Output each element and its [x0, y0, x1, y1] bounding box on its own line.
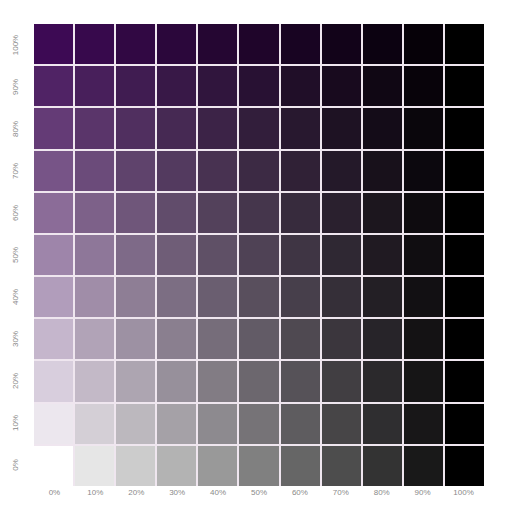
x-tick-label: 20% — [116, 488, 156, 497]
color-cell — [116, 235, 155, 275]
color-cell — [34, 404, 73, 444]
color-cell — [116, 277, 155, 317]
y-tick-label: 10% — [9, 409, 23, 437]
color-cell — [445, 277, 484, 317]
color-cell — [322, 193, 361, 233]
color-cell — [404, 108, 443, 148]
color-cell — [239, 193, 278, 233]
color-cell — [198, 193, 237, 233]
color-cell — [322, 277, 361, 317]
color-cell — [404, 235, 443, 275]
color-cell — [445, 24, 484, 64]
color-cell — [404, 404, 443, 444]
color-cell — [198, 66, 237, 106]
color-cell — [239, 319, 278, 359]
color-cell — [239, 446, 278, 486]
color-cell — [404, 151, 443, 191]
x-tick-label: 10% — [75, 488, 115, 497]
color-cell — [34, 277, 73, 317]
color-cell — [75, 361, 114, 401]
color-cell — [239, 235, 278, 275]
color-grid — [34, 24, 484, 486]
color-cell — [116, 24, 155, 64]
color-cell — [116, 193, 155, 233]
color-cell — [75, 404, 114, 444]
color-cell — [281, 24, 320, 64]
x-tick-label: 30% — [157, 488, 197, 497]
color-cell — [445, 151, 484, 191]
color-cell — [322, 404, 361, 444]
y-tick-label: 100% — [9, 31, 23, 59]
color-cell — [34, 108, 73, 148]
color-cell — [322, 66, 361, 106]
color-cell — [404, 277, 443, 317]
color-cell — [363, 151, 402, 191]
color-cell — [445, 404, 484, 444]
color-cell — [281, 404, 320, 444]
y-tick-label: 40% — [9, 283, 23, 311]
y-tick-label: 20% — [9, 367, 23, 395]
color-cell — [322, 319, 361, 359]
color-cell — [157, 446, 196, 486]
color-cell — [363, 24, 402, 64]
color-cell — [34, 24, 73, 64]
color-cell — [116, 361, 155, 401]
color-cell — [445, 108, 484, 148]
y-tick-label: 60% — [9, 199, 23, 227]
y-tick-label: 30% — [9, 325, 23, 353]
color-cell — [75, 193, 114, 233]
color-cell — [239, 361, 278, 401]
color-cell — [281, 151, 320, 191]
color-cell — [157, 193, 196, 233]
color-cell — [445, 446, 484, 486]
color-cell — [157, 277, 196, 317]
color-cell — [157, 66, 196, 106]
color-cell — [34, 151, 73, 191]
color-cell — [281, 235, 320, 275]
color-cell — [75, 24, 114, 64]
color-cell — [34, 66, 73, 106]
color-cell — [281, 319, 320, 359]
color-cell — [239, 404, 278, 444]
color-cell — [363, 235, 402, 275]
color-cell — [239, 108, 278, 148]
color-cell — [198, 151, 237, 191]
color-cell — [75, 66, 114, 106]
color-cell — [157, 319, 196, 359]
color-cell — [322, 235, 361, 275]
color-cell — [116, 446, 155, 486]
color-cell — [239, 66, 278, 106]
x-tick-label: 70% — [321, 488, 361, 497]
x-tick-label: 60% — [280, 488, 320, 497]
y-tick-label: 90% — [9, 73, 23, 101]
color-cell — [281, 66, 320, 106]
x-tick-label: 80% — [362, 488, 402, 497]
color-cell — [34, 361, 73, 401]
y-tick-label: 0% — [9, 451, 23, 479]
color-cell — [363, 277, 402, 317]
color-cell — [404, 361, 443, 401]
color-cell — [322, 24, 361, 64]
color-cell — [363, 66, 402, 106]
color-cell — [445, 66, 484, 106]
color-cell — [157, 24, 196, 64]
color-cell — [239, 151, 278, 191]
color-mixing-chart: 100%90%80%70%60%50%40%30%20%10%0% 0%10%2… — [0, 0, 508, 528]
color-cell — [363, 404, 402, 444]
x-tick-label: 50% — [239, 488, 279, 497]
color-cell — [445, 235, 484, 275]
color-cell — [445, 361, 484, 401]
color-cell — [34, 235, 73, 275]
color-cell — [363, 108, 402, 148]
color-cell — [198, 24, 237, 64]
color-cell — [404, 24, 443, 64]
color-cell — [75, 108, 114, 148]
color-cell — [75, 277, 114, 317]
color-cell — [322, 108, 361, 148]
color-cell — [157, 361, 196, 401]
color-cell — [404, 66, 443, 106]
color-cell — [116, 319, 155, 359]
color-cell — [75, 446, 114, 486]
color-cell — [363, 193, 402, 233]
color-cell — [404, 446, 443, 486]
